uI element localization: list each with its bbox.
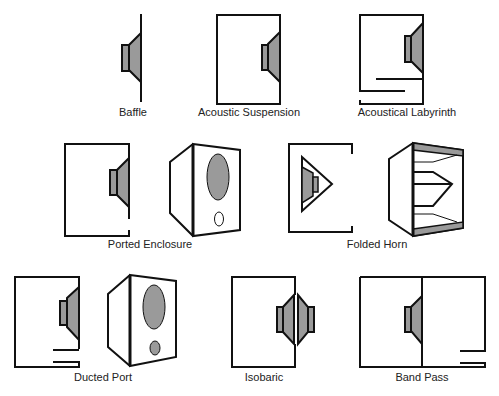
- speaker-cone-icon: [298, 295, 308, 344]
- speaker-magnet-icon: [405, 36, 411, 62]
- speaker-cone-icon: [129, 33, 141, 82]
- ported-enclosure-3d-diagram: [170, 144, 240, 236]
- speaker-cone-icon: [117, 158, 129, 207]
- band-pass-diagram: [360, 277, 485, 367]
- label-isobaric: Isobaric: [245, 371, 284, 383]
- acoustical-labyrinth-diagram: [360, 15, 423, 104]
- baffle-diagram: [122, 14, 141, 102]
- speaker-cone-icon: [411, 296, 422, 344]
- speaker-magnet-icon: [277, 307, 283, 332]
- speaker-cone-icon: [411, 23, 423, 73]
- label-ported-enclosure: Ported Enclosure: [108, 238, 192, 250]
- speaker-cone-icon: [67, 287, 79, 340]
- speaker-cone-icon: [268, 32, 280, 82]
- woofer-icon: [143, 285, 165, 329]
- isobaric-diagram: [232, 277, 314, 367]
- speaker-magnet-icon: [308, 307, 314, 332]
- speaker-magnet-icon: [405, 307, 411, 332]
- speaker-magnet-icon: [262, 45, 268, 70]
- woofer-icon: [207, 154, 229, 200]
- speaker-cone-icon: [283, 295, 294, 344]
- speaker-magnet-icon: [313, 177, 318, 192]
- speaker-cone-icon: [302, 167, 313, 203]
- label-acoustical-labyrinth: Acoustical Labyrinth: [358, 106, 456, 118]
- acoustic-suspension-diagram: [217, 15, 280, 104]
- label-ducted-port: Ducted Port: [74, 371, 132, 383]
- enclosure-diagrams: [0, 0, 499, 396]
- ducted-port-3d-diagram: [108, 275, 176, 366]
- ported-enclosure-side-diagram: [65, 144, 129, 236]
- port-icon: [215, 212, 224, 226]
- folded-horn-3d-diagram: [389, 143, 463, 236]
- label-folded-horn: Folded Horn: [347, 238, 408, 250]
- speaker-magnet-icon: [60, 301, 67, 325]
- label-baffle: Baffle: [119, 106, 147, 118]
- folded-horn-side-diagram: [289, 144, 352, 232]
- speaker-magnet-icon: [110, 170, 117, 195]
- label-acoustic-suspension: Acoustic Suspension: [198, 106, 300, 118]
- port-icon: [150, 341, 160, 355]
- ducted-port-side-diagram: [15, 277, 79, 367]
- speaker-magnet-icon: [122, 45, 129, 71]
- label-band-pass: Band Pass: [395, 371, 448, 383]
